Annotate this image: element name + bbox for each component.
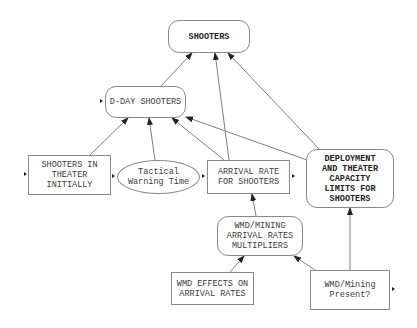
edge-arrival-to-shooters	[215, 53, 229, 160]
node-arrival-rate-for-shooters-label: ARRIVAL RATE FOR SHOOTERS	[218, 167, 279, 187]
input-port-icon	[112, 174, 115, 178]
node-wmd-mining-multipliers[interactable]: WMD/MINING ARRIVAL RATES MULTIPLIERS	[217, 216, 303, 256]
edge-initial-to-dday	[90, 118, 128, 155]
input-port-icon	[100, 99, 103, 103]
node-shooters-in-theater-initially[interactable]: SHOOTERS IN THEATER INITIALLY	[28, 155, 111, 195]
node-wmd-mining-present-label: WMD/Mining Present?	[324, 280, 375, 300]
node-deployment-capacity-limits[interactable]: DEPLOYMENT AND THEATER CAPACITY LIMITS F…	[306, 149, 394, 208]
output-port-icon	[292, 174, 295, 178]
edge-effects-to-multipliers	[230, 256, 244, 272]
node-tactical-warning-time-label: Tactical Warning Time	[128, 167, 189, 187]
edge-warning-to-dday	[149, 118, 155, 160]
node-wmd-mining-multipliers-label: WMD/MINING ARRIVAL RATES MULTIPLIERS	[227, 221, 293, 251]
edge-arrival-to-dday	[172, 118, 224, 160]
input-port-icon	[202, 174, 205, 178]
node-shooters-label: SHOOTERS	[189, 32, 230, 42]
node-shooters-in-theater-initially-label: SHOOTERS IN THEATER INITIALLY	[41, 160, 97, 190]
edge-dday-to-shooters	[160, 53, 192, 87]
output-port-icon	[392, 287, 395, 291]
node-wmd-effects-on-arrival-rates[interactable]: WMD EFFECTS ON ARRIVAL RATES	[171, 272, 254, 305]
node-arrival-rate-for-shooters[interactable]: ARRIVAL RATE FOR SHOOTERS	[207, 160, 290, 194]
node-dday-shooters-label: D-DAY SHOOTERS	[110, 97, 181, 107]
edge-deploy-to-shooters	[228, 53, 320, 150]
node-shooters[interactable]: SHOOTERS	[168, 20, 250, 53]
edge-deploy-to-dday	[186, 117, 307, 160]
node-tactical-warning-time[interactable]: Tactical Warning Time	[117, 160, 200, 194]
node-wmd-effects-on-arrival-rates-label: WMD EFFECTS ON ARRIVAL RATES	[177, 279, 248, 299]
node-wmd-mining-present[interactable]: WMD/Mining Present?	[310, 270, 390, 310]
input-port-icon	[24, 172, 27, 176]
node-dday-shooters[interactable]: D-DAY SHOOTERS	[105, 86, 186, 118]
edge-multipliers-to-arrival	[252, 194, 256, 216]
node-deployment-capacity-limits-label: DEPLOYMENT AND THEATER CAPACITY LIMITS F…	[322, 154, 378, 204]
